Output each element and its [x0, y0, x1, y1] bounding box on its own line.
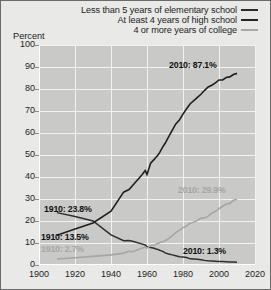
x-tick-label: 1980 [166, 269, 200, 279]
y-tick-mark [35, 265, 39, 266]
gridline-vertical [255, 45, 256, 265]
x-tick-label: 2020 [238, 269, 271, 279]
y-tick-label: 0 [7, 259, 35, 269]
legend-label-elementary: Less than 5 years of elementary school [81, 5, 237, 15]
data-point-annotation: 2010: 1.3% [183, 246, 226, 256]
x-tick-label: 1900 [22, 269, 56, 279]
legend-item-college: 4 or more years of college [133, 25, 258, 35]
data-point-annotation: 1910: 13.5% [41, 232, 89, 242]
elementary-line-swatch-icon [241, 9, 258, 11]
legend-label-highschool: At least 4 years of high school [118, 15, 237, 25]
y-tick-label: 80 [7, 83, 35, 93]
y-tick-label: 90 [7, 61, 35, 71]
y-tick-label: 20 [7, 215, 35, 225]
x-tick-label: 2000 [202, 269, 236, 279]
y-tick-label: 50 [7, 149, 35, 159]
college-line-swatch-icon [241, 29, 258, 31]
legend-label-college: 4 or more years of college [133, 25, 237, 35]
data-point-annotation: 2010: 29.9% [178, 185, 226, 195]
data-point-annotation: 2010: 87.1% [169, 60, 217, 70]
x-tick-label: 1960 [130, 269, 164, 279]
highschool-line-swatch-icon [241, 19, 258, 21]
x-tick-label: 1920 [58, 269, 92, 279]
y-tick-label: 100 [7, 39, 35, 49]
data-point-annotation: 1910: 23.8% [44, 204, 92, 214]
y-tick-label: 40 [7, 171, 35, 181]
legend-item-highschool: At least 4 years of high school [118, 15, 258, 25]
y-tick-label: 30 [7, 193, 35, 203]
y-tick-label: 60 [7, 127, 35, 137]
education-attainment-chart: Less than 5 years of elementary school A… [1, 1, 270, 289]
y-tick-label: 10 [7, 237, 35, 247]
legend-item-elementary: Less than 5 years of elementary school [81, 5, 258, 15]
x-tick-label: 1940 [94, 269, 128, 279]
y-tick-label: 70 [7, 105, 35, 115]
data-point-annotation: 1910: 2.7% [41, 244, 84, 254]
